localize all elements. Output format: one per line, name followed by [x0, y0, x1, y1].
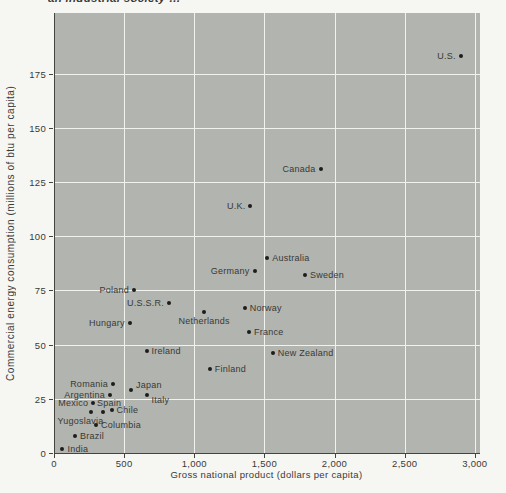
data-point-label-new-zealand: New Zealand [278, 348, 334, 358]
data-point-label-australia: Australia [272, 253, 309, 263]
x-tick-label-2500: 2,500 [392, 458, 417, 469]
x-tick-label-1500: 1,500 [252, 458, 277, 469]
data-point-canada [319, 167, 323, 171]
data-point-label-brazil: Brazil [80, 431, 104, 441]
data-point-label-ireland: Ireland [152, 346, 181, 356]
data-point-label-sweden: Sweden [310, 270, 344, 280]
x-tick-label-1000: 1,000 [182, 458, 207, 469]
data-point-label-romania: Romania [70, 379, 108, 389]
y-tick-label-50: 50 [0, 340, 46, 351]
y-tick-125 [49, 182, 53, 183]
data-point-label-u-s: U.S. [437, 51, 456, 61]
x-gridline-3000 [475, 13, 476, 453]
data-point-label-italy: Italy [152, 395, 170, 405]
data-point-label-norway: Norway [250, 303, 282, 313]
data-point-norway [243, 306, 247, 310]
y-tick-label-75: 75 [0, 285, 46, 296]
data-point-label-u-s-s-r: U.S.S.R. [127, 298, 164, 308]
data-point-label-hungary: Hungary [89, 318, 125, 328]
y-gridline-150 [55, 128, 480, 129]
data-point-label-columbia: Columbia [101, 420, 141, 430]
data-point-label-u-k: U.K. [227, 201, 246, 211]
x-tick-label-0: 0 [51, 458, 57, 469]
y-tick-0 [49, 453, 53, 454]
y-gridline-50 [55, 345, 480, 346]
data-point-spain [101, 410, 105, 414]
y-tick-label-175: 175 [0, 69, 46, 80]
x-gridline-1500 [264, 13, 265, 453]
data-point-label-india: India [67, 444, 88, 454]
data-point-hungary [128, 321, 132, 325]
data-point-label-france: France [254, 327, 284, 337]
y-tick-label-150: 150 [0, 123, 46, 134]
y-tick-25 [49, 399, 53, 400]
x-axis-title: Gross national product (dollars per capi… [54, 469, 479, 480]
x-gridline-500 [124, 13, 125, 453]
data-point-label-canada: Canada [282, 164, 315, 174]
data-point-romania [111, 382, 115, 386]
y-gridline-125 [55, 182, 480, 183]
data-point-yugoslavia [89, 410, 93, 414]
data-point-finland [208, 367, 212, 371]
x-gridline-1000 [194, 13, 195, 453]
x-tick-label-3000: 3,000 [462, 458, 487, 469]
data-point-label-mexico: Mexico [58, 398, 88, 408]
data-point-chile [110, 408, 114, 412]
y-tick-175 [49, 74, 53, 75]
x-gridline-2000 [335, 13, 336, 453]
x-tick-label-2000: 2,000 [322, 458, 347, 469]
x-tick-label-500: 500 [116, 458, 133, 469]
data-point-brazil [73, 434, 77, 438]
y-tick-150 [49, 128, 53, 129]
data-point-label-japan: Japan [136, 380, 162, 390]
data-point-italy [145, 393, 149, 397]
y-tick-50 [49, 345, 53, 346]
y-gridline-175 [55, 74, 480, 75]
data-point-argentina [108, 393, 112, 397]
data-point-germany [253, 269, 257, 273]
energy-vs-gnp-scatter-chart: Commercial energy consumption (millions … [0, 0, 506, 493]
plot-area [54, 13, 480, 454]
data-point-ireland [145, 349, 149, 353]
scanned-page: an industrial society … Commercial energ… [0, 0, 506, 493]
y-gridline-100 [55, 236, 480, 237]
y-tick-label-100: 100 [0, 231, 46, 242]
y-tick-label-25: 25 [0, 394, 46, 405]
y-tick-label-125: 125 [0, 177, 46, 188]
data-point-france [247, 330, 251, 334]
data-point-columbia [94, 423, 98, 427]
x-gridline-2500 [405, 13, 406, 453]
data-point-label-spain: Spain [97, 398, 121, 408]
data-point-label-poland: Poland [99, 285, 129, 295]
data-point-label-finland: Finland [215, 364, 246, 374]
data-point-label-netherlands: Netherlands [178, 316, 229, 326]
y-tick-label-0: 0 [0, 448, 46, 459]
y-tick-100 [49, 236, 53, 237]
y-tick-75 [49, 290, 53, 291]
data-point-label-germany: Germany [211, 266, 250, 276]
